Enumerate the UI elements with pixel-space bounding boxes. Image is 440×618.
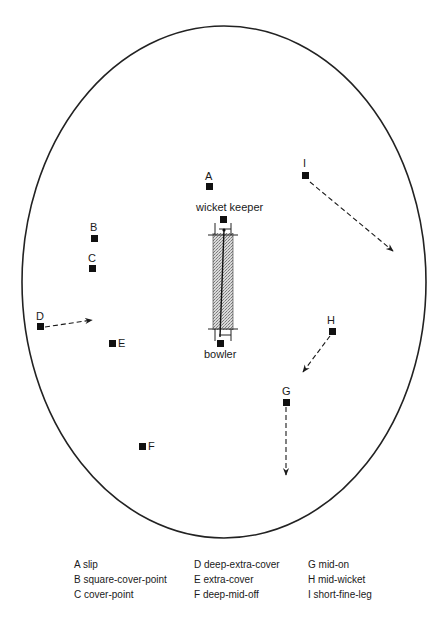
- fielder-marker: [206, 183, 213, 190]
- legend-item-b: B square-cover-point: [74, 574, 194, 586]
- fielder-marker: [109, 340, 116, 347]
- fielder-a: A: [205, 170, 213, 190]
- bowler-marker: [217, 340, 224, 347]
- fielder-marker: [37, 323, 44, 330]
- fielder-i: I: [302, 157, 393, 251]
- fielder-label: G: [282, 385, 291, 397]
- fielder-label: B: [90, 221, 97, 233]
- fielder-d: D: [36, 310, 92, 330]
- legend-item-d: D deep-extra-cover: [194, 559, 308, 571]
- fielder-marker: [89, 265, 96, 272]
- fielder-f: F: [139, 440, 155, 452]
- bowler-label: bowler: [204, 348, 237, 360]
- wicket-keeper-label: wicket keeper: [195, 201, 264, 213]
- legend-item-h: H mid-wicket: [308, 574, 408, 586]
- stumps-dot: [222, 228, 225, 231]
- fielder-marker: [329, 328, 336, 335]
- legend-item-c: C cover-point: [74, 589, 194, 601]
- fielder-label: H: [327, 314, 335, 326]
- wicket-keeper-marker: [220, 216, 227, 223]
- cricket-field-diagram: wicket keeper bowler ABCDEFGHI: [0, 0, 440, 618]
- fielder-h: H: [303, 314, 336, 372]
- fielder-e: E: [109, 337, 125, 349]
- fielder-b: B: [90, 221, 98, 242]
- pitch: [208, 223, 238, 341]
- fielder-label: A: [205, 170, 213, 182]
- legend: A slip D deep-extra-cover G mid-on B squ…: [74, 559, 408, 601]
- fielder-g: G: [282, 385, 291, 475]
- legend-item-e: E extra-cover: [194, 574, 308, 586]
- legend-item-i: I short-fine-leg: [308, 589, 408, 601]
- movement-arrow-icon: [45, 320, 92, 327]
- fielder-label: E: [118, 337, 125, 349]
- fielder-marker: [302, 172, 309, 179]
- fielder-marker: [283, 399, 290, 406]
- fielder-label: C: [88, 252, 96, 264]
- fielder-label: F: [148, 440, 155, 452]
- legend-item-g: G mid-on: [308, 559, 408, 571]
- movement-arrow-icon: [303, 336, 330, 372]
- fielder-marker: [139, 443, 146, 450]
- legend-item-a: A slip: [74, 559, 194, 571]
- fielder-label: I: [303, 157, 306, 169]
- fielder-label: D: [36, 310, 44, 322]
- fielder-marker: [91, 235, 98, 242]
- movement-arrow-icon: [310, 182, 393, 251]
- fielder-c: C: [88, 252, 96, 272]
- legend-item-f: F deep-mid-off: [194, 589, 308, 601]
